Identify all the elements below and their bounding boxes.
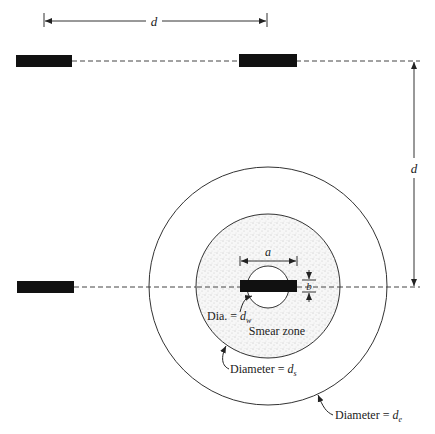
smear-diameter-leader [223, 346, 229, 369]
drain-center [240, 280, 297, 292]
horizontal-spacing-label: d [151, 14, 158, 29]
drain-thickness-label: b [306, 280, 312, 292]
drain-top-right [239, 54, 297, 67]
smear-diameter-label: Diameter = ds [230, 362, 297, 378]
vertical-spacing-label: d [411, 161, 418, 176]
vertical-spacing-dimension: d [411, 62, 418, 286]
influence-diameter-label: Diameter = de [335, 408, 402, 424]
drain-width-label: a [265, 245, 271, 259]
drain-bottom-left [17, 281, 74, 293]
smear-zone-label: Smear zone [249, 324, 305, 338]
well-diameter-label: Dia. = dw [207, 309, 252, 325]
influence-diameter-leader [318, 395, 333, 415]
horizontal-spacing-dimension: d [44, 13, 267, 29]
drain-layout-diagram: d d a b Dia. = dw Smear zone [0, 0, 435, 434]
drain-top-left [16, 55, 72, 67]
